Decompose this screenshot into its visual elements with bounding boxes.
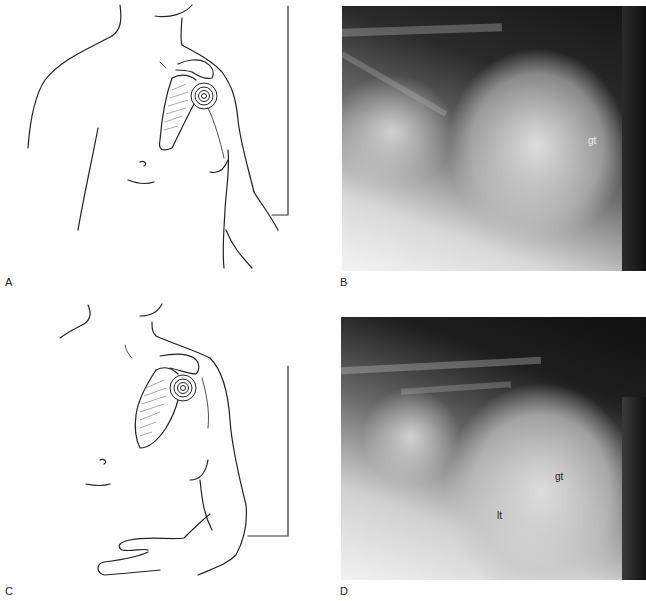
target-circles-icon — [191, 83, 217, 109]
panel-a-illustration: A — [0, 0, 320, 280]
torso-drawing-c — [0, 300, 320, 601]
xray-edge — [622, 397, 646, 580]
panel-c-illustration: C — [0, 300, 320, 601]
panel-label-b: B — [340, 276, 347, 288]
panel-b-radiograph: gt — [342, 6, 646, 271]
target-circles-icon — [170, 375, 196, 401]
annotation-lt-d: lt — [497, 510, 502, 521]
panel-label-c: C — [5, 585, 13, 597]
panel-label-a: A — [5, 276, 12, 288]
panel-d-radiograph: gt lt — [341, 317, 646, 580]
torso-drawing-a — [0, 0, 320, 280]
rib-shadow — [342, 51, 447, 116]
xray-edge — [622, 6, 646, 271]
clavicle-shadow — [342, 23, 502, 37]
annotation-gt-d: gt — [555, 471, 563, 482]
annotation-gt-b: gt — [588, 135, 596, 146]
clavicle-shadow — [341, 357, 541, 374]
panel-label-d: D — [340, 585, 348, 597]
rib-shadow — [401, 381, 511, 395]
